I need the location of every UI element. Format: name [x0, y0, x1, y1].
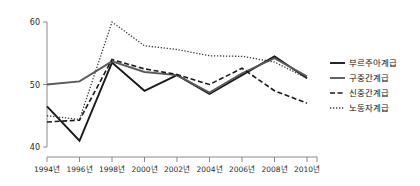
series-line-1	[47, 58, 307, 92]
x-tick-label-6: 2006년	[229, 164, 255, 174]
chart-canvas: 4050601994년1996년1998년2000년2002년2004년2006…	[0, 0, 420, 186]
y-tick-label-40: 40	[30, 143, 40, 152]
x-tick-label-4: 2002년	[164, 164, 190, 174]
y-tick-label-60: 60	[30, 18, 40, 27]
y-tick-label-50: 50	[30, 81, 40, 90]
x-tick-label-5: 2004년	[196, 164, 222, 174]
series-line-3	[47, 22, 307, 120]
line-chart: 4050601994년1996년1998년2000년2002년2004년2006…	[0, 0, 420, 186]
x-tick-label-0: 1994년	[34, 164, 60, 174]
x-tick-label-8: 2010년	[294, 164, 320, 174]
series-line-2	[47, 60, 307, 123]
x-tick-label-7: 2008년	[261, 164, 287, 174]
x-tick-label-2: 1998년	[99, 164, 125, 174]
legend-label-0: 부르주아계급	[349, 58, 397, 68]
legend-label-1: 구중간계급	[349, 73, 389, 83]
x-tick-label-3: 2000년	[131, 164, 157, 174]
legend-label-2: 신중간계급	[349, 88, 389, 98]
x-tick-label-1: 1996년	[66, 164, 92, 174]
legend-label-3: 노동자계급	[349, 103, 389, 113]
